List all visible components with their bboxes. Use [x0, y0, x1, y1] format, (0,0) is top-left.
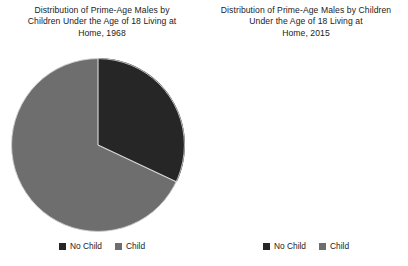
- legend-item-no-child-2015[interactable]: No Child: [263, 242, 306, 251]
- chart-panel-1968: Distribution of Prime-Age Males by Child…: [0, 0, 204, 266]
- legend-swatch-child-icon: [115, 243, 122, 250]
- legend-swatch-child-icon: [319, 243, 326, 250]
- chart-title-1968: Distribution of Prime-Age Males by Child…: [0, 5, 204, 39]
- chart-panel-2015: Distribution of Prime-Age Males by Child…: [204, 0, 408, 266]
- legend-swatch-no-child-icon: [59, 243, 66, 250]
- legend-label-no-child: No Child: [274, 242, 306, 251]
- legend-label-child: Child: [330, 242, 349, 251]
- legend-label-child: Child: [126, 242, 145, 251]
- pie-svg-1968: [11, 58, 185, 232]
- legend-2015: No Child Child: [204, 242, 408, 251]
- legend-swatch-no-child-icon: [263, 243, 270, 250]
- legend-item-child-1968[interactable]: Child: [115, 242, 145, 251]
- pie-charts-figure: Distribution of Prime-Age Males by Child…: [0, 0, 408, 266]
- legend-item-no-child-1968[interactable]: No Child: [59, 242, 102, 251]
- legend-1968: No Child Child: [0, 242, 204, 251]
- legend-item-child-2015[interactable]: Child: [319, 242, 349, 251]
- pie-chart-1968: [11, 58, 185, 232]
- legend-label-no-child: No Child: [70, 242, 102, 251]
- panel-divider: [204, 0, 205, 266]
- chart-title-2015: Distribution of Prime-Age Males by Child…: [204, 5, 408, 39]
